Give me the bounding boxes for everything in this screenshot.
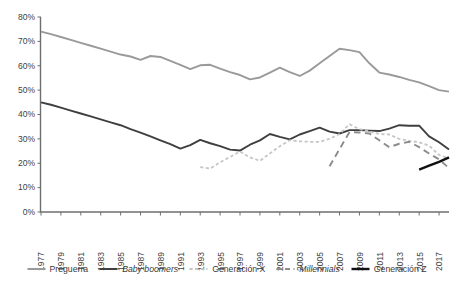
series-line-generaci-n-x <box>200 124 449 168</box>
y-tick-label: 0% <box>23 207 36 217</box>
legend-label: Generación Z <box>374 265 427 274</box>
line-chart: 0%10%20%30%40%50%60%70%80% 1977197919811… <box>0 0 453 283</box>
legend-label: Millennials <box>299 265 340 274</box>
y-tick-label: 40% <box>18 109 35 119</box>
legend-item-baby-boomers[interactable]: Baby boomers <box>99 265 178 274</box>
series-lines <box>41 32 449 170</box>
y-axis-ticks: 0%10%20%30%40%50%60%70%80% <box>18 12 41 217</box>
series-line-preguerra <box>41 32 449 92</box>
legend-swatch-icon <box>27 265 46 273</box>
legend-item-preguerra[interactable]: Preguerra <box>27 265 89 274</box>
legend-label: Baby boomers <box>122 265 178 274</box>
legend-swatch-icon <box>99 265 118 273</box>
legend-swatch-icon <box>189 265 208 273</box>
legend-label: Preguerra <box>50 265 89 274</box>
chart-legend: PreguerraBaby boomersGeneración XMillenn… <box>0 258 453 280</box>
y-tick-label: 10% <box>18 182 35 192</box>
legend-item-generaci-n-z[interactable]: Generación Z <box>351 265 427 274</box>
legend-item-generaci-n-x[interactable]: Generación X <box>189 265 265 274</box>
series-line-baby-boomers <box>41 102 449 150</box>
legend-swatch-icon <box>351 265 370 273</box>
chart-canvas: 0%10%20%30%40%50%60%70%80% 1977197919811… <box>0 0 453 283</box>
y-tick-label: 60% <box>18 61 35 71</box>
legend-swatch-icon <box>276 265 295 273</box>
y-tick-label: 80% <box>18 12 35 22</box>
y-tick-label: 30% <box>18 134 35 144</box>
y-tick-label: 20% <box>18 158 35 168</box>
y-tick-label: 70% <box>18 36 35 46</box>
legend-item-millennials[interactable]: Millennials <box>276 265 340 274</box>
legend-label: Generación X <box>212 265 265 274</box>
y-tick-label: 50% <box>18 85 35 95</box>
